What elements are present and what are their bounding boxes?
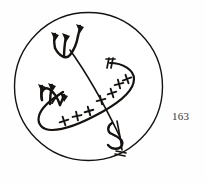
figure-illustration <box>0 0 206 183</box>
figure-page: 163 <box>0 0 206 183</box>
circle-frame <box>15 13 163 161</box>
figure-number: 163 <box>172 111 189 122</box>
